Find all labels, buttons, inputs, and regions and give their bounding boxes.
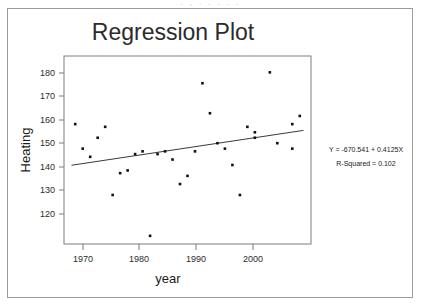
data-point <box>96 136 99 139</box>
data-point <box>119 172 122 175</box>
data-point <box>269 71 272 74</box>
data-point <box>216 142 219 145</box>
data-point <box>298 115 301 118</box>
data-point <box>171 158 174 161</box>
x-axis-title: year <box>155 271 181 286</box>
data-point <box>291 147 294 150</box>
data-point <box>81 147 84 150</box>
data-point <box>254 136 257 139</box>
data-point <box>239 194 242 197</box>
y-tick-label: 160 <box>40 115 55 125</box>
r-squared-annotation: R-Squared = 0.102 <box>336 160 395 168</box>
data-point <box>291 123 294 126</box>
data-point <box>209 112 212 115</box>
x-axis-tick-labels: 1970 1980 1990 2000 <box>73 254 263 264</box>
data-point <box>231 164 234 167</box>
data-point <box>246 126 249 129</box>
regression-fit-line <box>71 130 303 165</box>
clipped-header-text: . , . . . . . <box>0 0 421 8</box>
regression-equation-annotation: Y = -670.541 + 0.4125X <box>329 146 404 153</box>
data-point <box>224 147 227 150</box>
y-axis-tick-labels: 180 170 160 150 140 130 120 <box>40 68 55 219</box>
data-point <box>156 153 159 156</box>
data-point <box>111 194 114 197</box>
data-point <box>254 131 257 134</box>
x-tick-label: 1980 <box>129 254 149 264</box>
data-point <box>141 150 144 153</box>
data-point <box>104 126 107 129</box>
data-point <box>134 153 137 156</box>
x-tick-label: 2000 <box>243 254 263 264</box>
data-point <box>89 156 92 159</box>
y-tick-label: 180 <box>40 68 55 78</box>
y-tick-label: 150 <box>40 138 55 148</box>
y-tick-label: 120 <box>40 209 55 219</box>
scatter-points <box>74 71 301 237</box>
y-tick-label: 140 <box>40 162 55 172</box>
x-axis-ticks <box>83 244 253 250</box>
data-point <box>149 235 152 238</box>
x-tick-label: 1970 <box>73 254 93 264</box>
y-axis-ticks <box>59 73 64 214</box>
regression-plot: 180 170 160 150 140 130 120 1970 1980 19… <box>8 9 414 299</box>
data-point <box>186 175 189 178</box>
data-point <box>126 169 129 172</box>
plot-frame <box>64 56 311 244</box>
y-tick-label: 130 <box>40 185 55 195</box>
data-point <box>201 82 204 85</box>
data-point <box>179 183 182 186</box>
chart-page-frame: Regression Plot 180 170 160 150 140 130 … <box>7 8 413 298</box>
y-axis-title: Heating <box>18 128 33 173</box>
data-point <box>276 142 279 145</box>
data-point <box>164 150 167 153</box>
data-point <box>194 150 197 153</box>
y-tick-label: 170 <box>40 91 55 101</box>
data-point <box>74 123 77 126</box>
x-tick-label: 1990 <box>186 254 206 264</box>
